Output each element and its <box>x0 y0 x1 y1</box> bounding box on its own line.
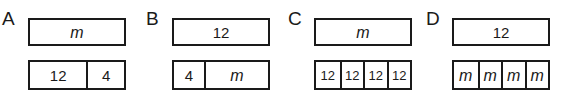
group-a-bottom-cell-1: 12 <box>30 62 86 88</box>
group-d-bottom-cell-2: m <box>478 62 502 88</box>
group-a-bottom-bar: 12 4 <box>28 60 126 90</box>
tape-diagram-figure: A m 12 4 B 12 4 m C m 12 12 12 12 <box>0 0 562 102</box>
group-c-top-bar: m <box>314 18 412 46</box>
group-d-bottom-cell-4: m <box>525 62 549 88</box>
group-label-d: D <box>426 9 440 28</box>
diagram-group-b: B 12 4 m <box>146 0 286 102</box>
group-c-bottom-cell-3: 12 <box>363 62 387 88</box>
group-b-bottom-cell-2: m <box>204 62 268 88</box>
group-d-top-bar: 12 <box>452 18 550 46</box>
group-b-top-cell-1: 12 <box>174 20 268 44</box>
group-b-bottom-cell-1: 4 <box>174 62 204 88</box>
group-d-bottom-bar: m m m m <box>452 60 550 90</box>
group-a-bottom-cell-2: 4 <box>86 62 124 88</box>
group-b-bottom-bar: 4 m <box>172 60 270 90</box>
group-label-a: A <box>2 9 15 28</box>
group-a-top-bar: m <box>28 18 126 46</box>
group-d-top-cell-1: 12 <box>454 20 548 44</box>
group-c-bottom-cell-4: 12 <box>387 62 411 88</box>
group-d-bottom-cell-1: m <box>454 62 478 88</box>
group-c-top-cell-1: m <box>316 20 410 44</box>
group-d-bottom-cell-3: m <box>501 62 525 88</box>
group-label-b: B <box>146 9 159 28</box>
group-c-bottom-cell-2: 12 <box>340 62 364 88</box>
group-b-top-bar: 12 <box>172 18 270 46</box>
group-a-top-cell-1: m <box>30 20 124 44</box>
group-c-bottom-bar: 12 12 12 12 <box>314 60 412 90</box>
diagram-group-c: C m 12 12 12 12 <box>288 0 423 102</box>
diagram-group-d: D 12 m m m m <box>426 0 562 102</box>
group-c-bottom-cell-1: 12 <box>316 62 340 88</box>
diagram-group-a: A m 12 4 <box>2 0 142 102</box>
group-label-c: C <box>288 9 302 28</box>
